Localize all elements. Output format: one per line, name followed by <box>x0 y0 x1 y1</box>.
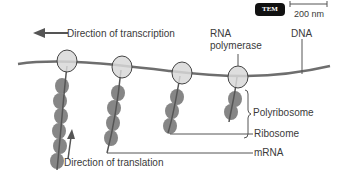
transcription-translation-diagram: TEM 200 nm Direction of transcription RN… <box>0 0 342 175</box>
diagram-graphics <box>0 0 342 175</box>
rna-polymerase-label-line1: RNA <box>210 28 231 39</box>
direction-of-transcription-label: Direction of transcription <box>67 28 175 39</box>
ribosome-label: Ribosome <box>254 128 299 139</box>
polysome-1 <box>50 66 69 170</box>
rna-polymerase-label-line2: polymerase <box>210 40 262 51</box>
polyribosome-label: Polyribosome <box>253 107 314 118</box>
mrna-label: mRNA <box>254 147 283 158</box>
scale-bar-label: 200 nm <box>294 9 324 20</box>
transcription-arrow-icon <box>33 28 68 38</box>
translation-arrow-icon <box>67 129 75 159</box>
scale-bar <box>290 1 327 7</box>
dna-label: DNA <box>291 28 312 39</box>
polysome-3 <box>163 76 184 134</box>
tem-badge: TEM <box>255 3 285 16</box>
direction-of-translation-label: Direction of translation <box>64 157 164 168</box>
polysome-2 <box>104 70 125 153</box>
